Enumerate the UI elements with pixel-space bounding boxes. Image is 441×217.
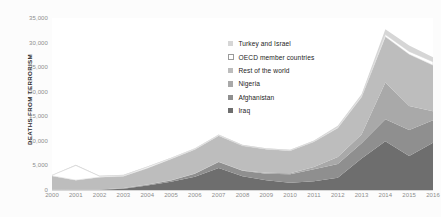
x-axis-tick-label: 2000: [45, 192, 59, 198]
y-axis-tick-label: 0: [4, 187, 48, 193]
y-axis-tick-label: 25,000: [4, 64, 48, 70]
x-axis-tick-label: 2007: [212, 192, 226, 198]
legend-item[interactable]: Iraq: [228, 104, 368, 117]
x-axis-tick-label: 2002: [93, 192, 107, 198]
legend-item-label: OECD member countries: [239, 54, 315, 61]
y-axis-tick-labels: 05,00010,00015,00020,00025,00030,00035,0…: [0, 18, 48, 190]
x-axis-tick-label: 2016: [426, 192, 440, 198]
x-axis-tick-label: 2008: [236, 192, 250, 198]
x-axis-tick-label: 2012: [331, 192, 345, 198]
x-axis-tick-labels: 2000200120022003200420052006200720082009…: [52, 192, 433, 206]
chart-legend: Turkey and IsraelOECD member countriesRe…: [228, 37, 368, 117]
x-axis-tick-label: 2005: [164, 192, 178, 198]
y-axis-tick-label: 15,000: [4, 113, 48, 119]
y-axis-tick-label: 5,000: [4, 162, 48, 168]
x-axis-tick-label: 2010: [283, 192, 297, 198]
legend-item-label: Turkey and Israel: [238, 40, 290, 47]
legend-item[interactable]: Rest of the world: [228, 64, 368, 77]
chart-figure: DEATHS FROM TERRORISM 05,00010,00015,000…: [0, 0, 441, 217]
x-axis-tick-label: 2001: [69, 192, 83, 198]
x-axis-tick-label: 2013: [355, 192, 369, 198]
x-axis-tick-label: 2006: [188, 192, 202, 198]
y-axis-tick-label: 30,000: [4, 40, 48, 46]
x-axis-tick-label: 2015: [402, 192, 416, 198]
x-axis-baseline: [52, 190, 433, 191]
x-axis-tick-label: 2011: [307, 192, 320, 198]
legend-item[interactable]: Afghanistan: [228, 91, 368, 104]
legend-item[interactable]: Turkey and Israel: [228, 37, 368, 50]
x-axis-tick-label: 2009: [259, 192, 273, 198]
legend-swatch-icon: [228, 41, 233, 46]
x-axis-tick-label: 2004: [140, 192, 154, 198]
x-axis-tick-label: 2014: [379, 192, 393, 198]
legend-swatch-icon: [228, 95, 233, 100]
legend-swatch-icon: [228, 108, 233, 113]
y-axis-tick-label: 20,000: [4, 89, 48, 95]
legend-item-label: Rest of the world: [238, 67, 289, 74]
legend-swatch-icon: [228, 54, 234, 60]
legend-item[interactable]: Nigeria: [228, 77, 368, 90]
x-axis-tick-label: 2003: [117, 192, 131, 198]
legend-item-label: Nigeria: [238, 80, 260, 87]
legend-item-label: Afghanistan: [238, 94, 274, 101]
y-axis-tick-label: 35,000: [4, 15, 48, 21]
y-axis-tick-label: 10,000: [4, 138, 48, 144]
legend-swatch-icon: [228, 68, 233, 73]
legend-item[interactable]: OECD member countries: [228, 50, 368, 63]
legend-item-label: Iraq: [238, 107, 250, 114]
legend-swatch-icon: [228, 81, 233, 86]
